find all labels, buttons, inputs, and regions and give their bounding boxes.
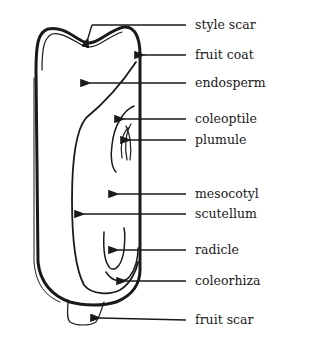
label-mesocotyl: mesocotyl bbox=[195, 187, 259, 201]
label-fruit-scar: fruit scar bbox=[195, 313, 254, 327]
leader-fruit-scar bbox=[100, 318, 186, 320]
label-endosperm: endosperm bbox=[195, 76, 266, 90]
fruit-coat-inner bbox=[42, 32, 122, 70]
label-coleorhiza: coleorhiza bbox=[195, 274, 261, 288]
label-fruit-coat: fruit coat bbox=[195, 48, 254, 62]
label-coleoptile: coleoptile bbox=[195, 112, 257, 126]
leader-style-scar-drop bbox=[88, 25, 92, 38]
label-radicle: radicle bbox=[195, 243, 239, 257]
fruit-coat-outline bbox=[36, 27, 140, 305]
plumule-shape bbox=[121, 124, 131, 160]
label-plumule: plumule bbox=[195, 133, 246, 147]
radicle-shape bbox=[104, 228, 125, 269]
label-style-scar: style scar bbox=[195, 18, 256, 32]
label-scutellum: scutellum bbox=[195, 207, 257, 221]
